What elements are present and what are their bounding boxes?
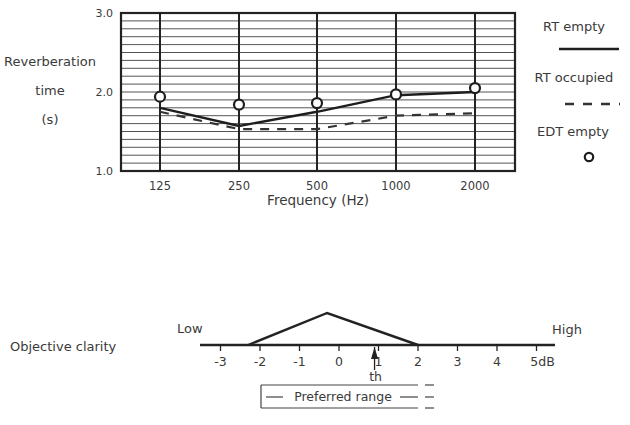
x-tick-label: 250 (228, 179, 250, 193)
x-tick-label: 1000 (381, 179, 410, 193)
y-axis-tick-labels: 1.02.03.0 (96, 7, 114, 178)
high-label: High (552, 322, 582, 337)
legend-label-rt-empty: RT empty (543, 19, 605, 34)
edt-marker (234, 100, 244, 110)
clarity-tick-label: 5dB (530, 354, 554, 369)
clarity-tick-label: 2 (414, 354, 422, 369)
clarity-tick-label: 0 (335, 354, 343, 369)
clarity-diagram: Objective clarity Low High -3-2-1012345d… (10, 313, 582, 408)
clarity-tick-label: -3 (214, 354, 226, 369)
clarity-title: Objective clarity (10, 339, 117, 354)
x-axis-tick-labels: 12525050010002000 (149, 179, 490, 193)
edt-marker (155, 92, 165, 102)
y-tick-label: 3.0 (96, 7, 114, 20)
preferred-range-label: Preferred range (294, 389, 392, 404)
clarity-tick-label: -1 (293, 354, 305, 369)
clarity-axis-ticks: -3-2-1012345dB (214, 345, 554, 369)
y-tick-label: 2.0 (96, 86, 114, 99)
y-axis-label: Reverberation time (s) (4, 54, 96, 127)
clarity-tick-label: 4 (493, 354, 501, 369)
edt-marker (391, 89, 401, 99)
edt-marker (470, 83, 480, 93)
x-tick-label: 2000 (460, 179, 489, 193)
legend: RT empty RT occupied EDT empty (535, 19, 620, 161)
threshold-arrow-head-icon (371, 347, 378, 359)
threshold-label: th (369, 369, 382, 384)
y-axis-label-line-1: Reverberation (4, 54, 96, 69)
preferred-range-box: Preferred range (261, 385, 434, 408)
x-tick-label: 500 (306, 179, 328, 193)
figure-canvas: 1.02.03.0 12525050010002000 Frequency (H… (0, 0, 630, 425)
legend-label-edt-empty: EDT empty (537, 124, 609, 139)
y-axis-label-line-2: time (35, 83, 64, 98)
clarity-tick-label: 3 (454, 354, 462, 369)
y-axis-label-line-3: (s) (42, 112, 59, 127)
clarity-distribution-triangle (248, 313, 418, 345)
clarity-tick-label: -2 (254, 354, 266, 369)
low-label: Low (177, 321, 203, 336)
legend-swatch-circle-marker (585, 153, 593, 161)
figure: 1.02.03.0 12525050010002000 Frequency (H… (0, 0, 630, 425)
x-axis-label: Frequency (Hz) (267, 192, 369, 208)
reverberation-chart: 1.02.03.0 12525050010002000 Frequency (H… (4, 7, 620, 208)
legend-label-rt-occupied: RT occupied (535, 70, 614, 85)
edt-marker (312, 98, 322, 108)
x-tick-label: 125 (149, 179, 171, 193)
y-tick-label: 1.0 (96, 165, 114, 178)
